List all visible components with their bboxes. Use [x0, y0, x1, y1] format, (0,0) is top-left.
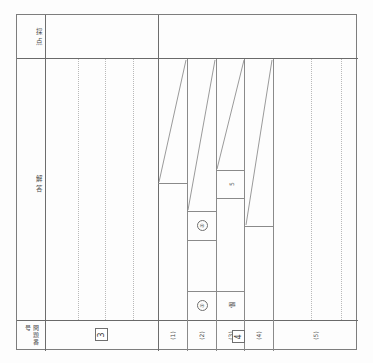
- guide-dotted-line-4: [311, 59, 312, 320]
- subq-label-1-text: (1): [169, 331, 176, 340]
- subq-label-4: (4): [244, 321, 273, 350]
- row-label-answer: 解答: [31, 145, 41, 225]
- row-label-question-number: 問題番号: [19, 324, 44, 350]
- answer-mark-circled-1: ①: [197, 300, 208, 311]
- row-label-grading: 採点: [31, 23, 41, 53]
- answer-mark-circled-1-text: ①: [200, 303, 206, 308]
- subq-label-2: (2): [187, 321, 216, 350]
- answer-mark-circled-2: ②: [197, 220, 208, 231]
- subq-divider-1: [187, 59, 188, 351]
- subq-label-4-text: (4): [255, 331, 262, 340]
- guide-dotted-line-5: [341, 59, 342, 320]
- guide-dotted-line-2: [105, 59, 106, 320]
- answer-sheet-table: 採点 解答 問題番号 3 5: [16, 14, 357, 350]
- question-number-box-3: 3: [95, 328, 108, 341]
- label-column-divider: [45, 15, 46, 351]
- subq-divider-4: [273, 59, 274, 351]
- cell-rule-subq1: [158, 183, 187, 184]
- question-number-box-4-wrapper: 4: [232, 330, 245, 343]
- subq-label-1: (1): [158, 321, 187, 350]
- subq-divider-3: [244, 59, 245, 351]
- subq-label-5: (5): [301, 293, 330, 363]
- cell-rule-subq2-bottom: [187, 291, 216, 292]
- question-number-3-text: 3: [98, 332, 106, 337]
- question-number-4-text: 4: [235, 334, 243, 339]
- answer-mark-5: 5: [217, 170, 245, 199]
- guide-dotted-line-3: [133, 59, 134, 320]
- subq-divider-2: [216, 59, 217, 351]
- answer-mark-5-text: 5: [227, 182, 234, 186]
- answer-mark-unit-kanji: 個: [222, 291, 240, 320]
- cell-rule-subq2-lower: [187, 240, 216, 241]
- subq-label-5-text: (5): [312, 331, 319, 340]
- answer-mark-circled-2-text: ②: [200, 223, 206, 228]
- guide-dotted-line-1: [78, 59, 79, 320]
- question-number-label-text: 問題番号: [24, 325, 40, 349]
- answer-mark-unit-kanji-text: 個: [226, 302, 235, 308]
- subq-label-2-text: (2): [198, 331, 205, 340]
- cell-rule-subq4: [244, 226, 273, 227]
- cell-rule-subq2-upper: [187, 211, 216, 212]
